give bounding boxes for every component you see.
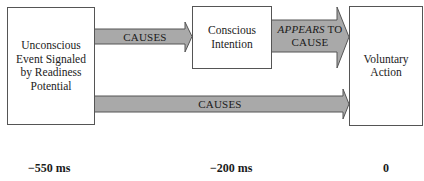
conscious-intention-label: Conscious Intention <box>193 24 271 51</box>
unconscious-event-label: Unconscious Event Signaled by Readiness … <box>8 39 94 93</box>
conscious-intention-box: Conscious Intention <box>192 6 272 69</box>
voluntary-action-box: Voluntary Action <box>349 6 423 126</box>
causes-label-bottom: CAUSES <box>180 98 260 110</box>
appears-italic-text: APPEARS <box>278 23 325 35</box>
time-label-550: −550 ms <box>28 161 71 176</box>
causes-label-top: CAUSES <box>110 31 180 43</box>
causes-text: CAUSES <box>123 31 166 43</box>
voluntary-action-label: Voluntary Action <box>350 53 422 80</box>
unconscious-event-box: Unconscious Event Signaled by Readiness … <box>7 7 95 125</box>
causes-text: CAUSES <box>198 98 241 110</box>
appears-to-cause-label: APPEARS TO CAUSE <box>274 23 346 49</box>
time-label-200: −200 ms <box>210 161 253 176</box>
time-label-0: 0 <box>383 161 389 176</box>
